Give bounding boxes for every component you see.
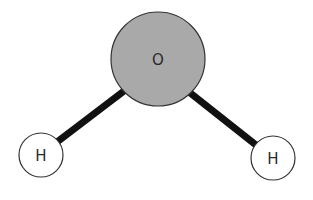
hydrogen-label-left: H [35,147,46,165]
water-molecule-diagram: O H H [0,0,313,200]
oxygen-atom: O [111,12,205,106]
hydrogen-atom-right: H [251,136,295,180]
oxygen-label: O [152,51,164,69]
hydrogen-label-right: H [267,150,278,168]
hydrogen-atom-left: H [19,133,63,177]
